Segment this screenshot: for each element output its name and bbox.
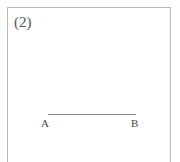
point-label-a: A	[41, 117, 49, 129]
point-label-b: B	[131, 117, 138, 129]
figure-container: (2) A B	[0, 0, 180, 162]
line-segment-ab	[48, 114, 136, 115]
geometry-drawing: A B	[0, 0, 180, 162]
